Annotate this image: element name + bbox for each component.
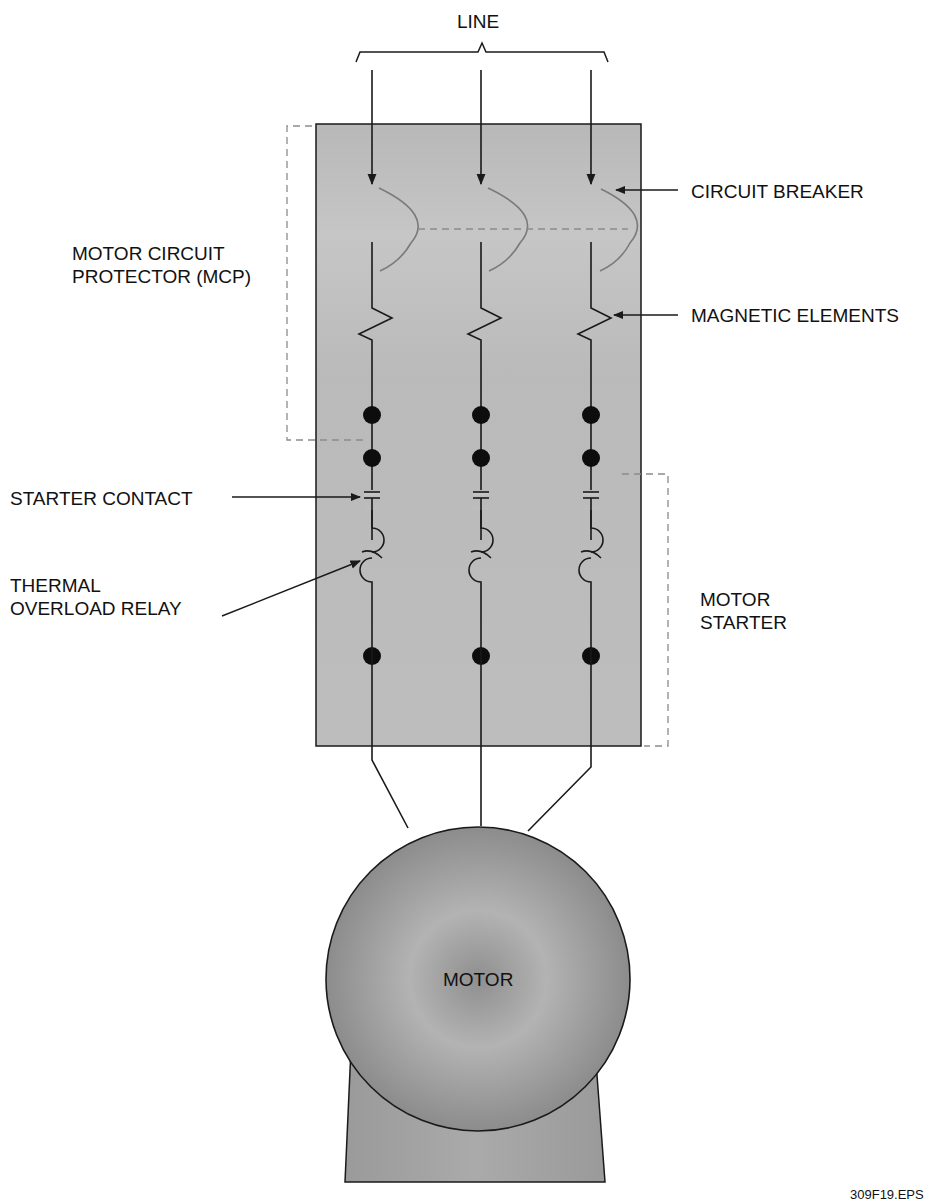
label-line: LINE <box>457 10 499 33</box>
label-starter-contact: STARTER CONTACT <box>10 487 193 510</box>
label-motor-starter-line1: MOTOR <box>700 588 787 611</box>
label-circuit-breaker: CIRCUIT BREAKER <box>691 180 864 203</box>
label-mcp-line2: PROTECTOR (MCP) <box>72 265 251 288</box>
label-motor-starter: MOTOR STARTER <box>700 588 787 634</box>
figure-id: 309F19.EPS <box>850 1188 924 1202</box>
label-thermal-line1: THERMAL <box>10 574 182 597</box>
label-motor-starter-line2: STARTER <box>700 611 787 634</box>
line-brace <box>356 43 608 62</box>
label-thermal-overload-relay: THERMAL OVERLOAD RELAY <box>10 574 182 620</box>
label-motor: MOTOR <box>443 968 513 991</box>
label-mcp-line1: MOTOR CIRCUIT <box>72 242 251 265</box>
label-thermal-line2: OVERLOAD RELAY <box>10 597 182 620</box>
label-mcp: MOTOR CIRCUIT PROTECTOR (MCP) <box>72 242 251 288</box>
label-magnetic-elements: MAGNETIC ELEMENTS <box>691 304 899 327</box>
